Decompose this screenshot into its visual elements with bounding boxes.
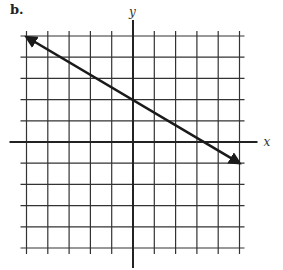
x-axis-label: x <box>264 135 271 149</box>
coordinate-grid-chart: xy <box>0 0 283 270</box>
y-axis-label: y <box>128 5 136 19</box>
